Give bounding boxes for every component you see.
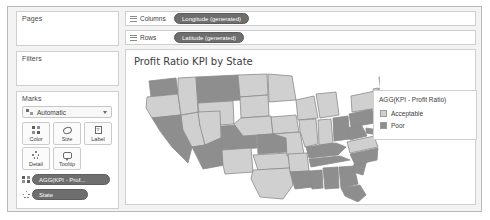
marks-side-panel: Pages Filters Marks Automatic Color <box>16 11 119 207</box>
detail-icon <box>22 191 30 199</box>
detail-button-label: Detail <box>29 161 43 167</box>
color-button-label: Color <box>29 136 42 142</box>
shelf-grip-icon <box>130 34 137 41</box>
marks-pill-color[interactable]: AGG(KPI - Prof... <box>22 174 110 185</box>
legend-title: AGG(KPI - Profit Ratio) <box>379 96 446 103</box>
detail-button[interactable]: Detail <box>22 147 50 170</box>
chevron-down-icon[interactable] <box>103 111 107 114</box>
color-icon <box>22 176 30 184</box>
tooltip-button-label: Tooltip <box>59 161 75 167</box>
color-button[interactable]: Color <box>22 122 50 145</box>
size-button[interactable]: Size <box>53 122 81 145</box>
filters-card[interactable]: Filters <box>16 51 119 86</box>
pill-agg-kpi-profit-ratio[interactable]: AGG(KPI - Prof... <box>32 174 110 185</box>
map-state-north-dakota[interactable] <box>238 74 268 97</box>
marks-card: Marks Automatic Color Size <box>16 91 119 209</box>
map-state-wisconsin[interactable] <box>296 96 318 120</box>
marks-type-icon <box>25 108 34 117</box>
map-state-indiana[interactable] <box>318 119 333 145</box>
marks-card-title: Marks <box>22 95 42 102</box>
pages-card-title: Pages <box>22 15 42 22</box>
map-state-south-dakota[interactable] <box>240 95 269 118</box>
color-legend: AGG(KPI - Profit Ratio) Acceptable Poor <box>373 90 477 140</box>
map-state-montana[interactable] <box>196 75 240 103</box>
map-state-oregon[interactable] <box>146 94 181 118</box>
legend-swatch-acceptable <box>380 110 387 117</box>
tooltip-button[interactable]: Tooltip <box>53 147 81 170</box>
map-state-idaho[interactable] <box>178 77 198 115</box>
legend-swatch-poor <box>380 122 387 129</box>
viz-title: Profit Ratio KPI by State <box>134 56 253 67</box>
legend-label-acceptable: Acceptable <box>391 110 423 117</box>
map-state-oklahoma[interactable] <box>253 153 290 170</box>
label-icon: T <box>95 126 102 135</box>
label-button-label: Label <box>91 136 104 142</box>
us-choropleth-map[interactable] <box>140 72 380 202</box>
map-state-minnesota[interactable] <box>268 74 296 102</box>
shelf-grip-icon <box>130 15 137 22</box>
map-state-texas[interactable] <box>251 168 293 199</box>
rows-shelf-label: Rows <box>140 34 174 41</box>
map-state-alabama[interactable] <box>323 167 339 189</box>
tableau-worksheet-window: Pages Filters Marks Automatic Color <box>7 6 482 212</box>
label-button[interactable]: T Label <box>84 122 112 145</box>
marks-property-row-2: Detail Tooltip <box>22 147 81 170</box>
map-state-new-mexico[interactable] <box>222 148 253 174</box>
marks-property-row-1: Color Size T Label <box>22 122 112 145</box>
detail-icon <box>32 151 41 160</box>
legend-label-poor: Poor <box>391 122 405 129</box>
size-icon <box>63 126 72 135</box>
tooltip-icon <box>63 151 72 160</box>
mark-type-select[interactable]: Automatic <box>22 106 112 118</box>
rows-shelf[interactable]: Rows Latitude (generated) <box>125 30 476 45</box>
columns-shelf[interactable]: Columns Longitude (generated) <box>125 11 476 26</box>
us-map-svg <box>140 72 380 202</box>
color-icon <box>32 126 40 135</box>
pill-state[interactable]: State <box>32 189 88 200</box>
legend-item-acceptable[interactable]: Acceptable <box>380 110 423 117</box>
worksheet-viz-area: Columns Longitude (generated) Rows Latit… <box>125 11 476 207</box>
pill-latitude-generated[interactable]: Latitude (generated) <box>174 32 244 43</box>
map-state-arkansas[interactable] <box>288 153 309 172</box>
map-state-michigan[interactable] <box>316 92 339 118</box>
marks-pill-detail[interactable]: State <box>22 189 88 200</box>
pill-longitude-generated[interactable]: Longitude (generated) <box>174 13 249 24</box>
legend-item-poor[interactable]: Poor <box>380 122 405 129</box>
pages-card[interactable]: Pages <box>16 11 119 46</box>
filters-card-title: Filters <box>22 55 42 62</box>
map-state-iowa[interactable] <box>271 115 299 134</box>
size-button-label: Size <box>62 136 73 142</box>
viz-canvas[interactable]: Profit Ratio KPI by State AGG(KPI - Prof… <box>125 49 476 205</box>
columns-shelf-label: Columns <box>140 15 174 22</box>
map-state-florida[interactable] <box>341 185 366 202</box>
mark-type-value: Automatic <box>37 109 66 116</box>
map-state-ohio[interactable] <box>333 116 350 141</box>
